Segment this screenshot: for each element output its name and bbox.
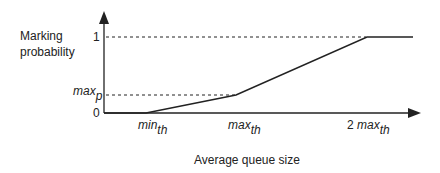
x-tick-max-main: max	[228, 118, 251, 132]
x-tick-2max-prefix: 2	[347, 118, 357, 132]
x-axis-arrow-icon	[408, 108, 421, 118]
x-axis-label: Average queue size	[194, 153, 300, 167]
x-tick-min-sub: th	[157, 123, 167, 137]
y-tick-max-p-sub: p	[96, 89, 103, 103]
x-tick-min-th: minth	[138, 118, 167, 132]
y-axis-arrow-icon	[99, 11, 109, 24]
y-tick-max-p: maxp	[73, 84, 102, 98]
x-tick-2max-th: 2 maxth	[347, 118, 390, 132]
y-tick-zero: 0	[93, 106, 100, 120]
x-tick-2max-main: max	[357, 118, 380, 132]
x-tick-max-sub: th	[251, 123, 261, 137]
x-tick-2max-sub: th	[380, 123, 390, 137]
marking-probability-curve	[104, 37, 413, 113]
y-tick-max-p-main: max	[73, 84, 96, 98]
y-axis-label-line2: probability	[20, 45, 75, 59]
red-curve-diagram	[0, 0, 440, 173]
x-tick-max-th: maxth	[228, 118, 261, 132]
y-tick-one: 1	[93, 30, 100, 44]
y-axis-label-line1: Marking	[20, 29, 63, 43]
x-tick-min-main: min	[138, 118, 157, 132]
